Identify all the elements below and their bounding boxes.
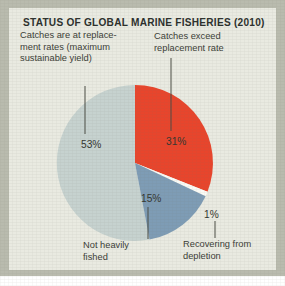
- data-label-15: 15%: [141, 193, 161, 204]
- data-label-53: 53%: [81, 139, 101, 150]
- data-label-31: 31%: [166, 136, 186, 147]
- figure-root: STATUS OF GLOBAL MARINE FISHERIES (2010)…: [0, 0, 285, 286]
- annotation-catches-exceed: Catches exceed replacement rate: [154, 31, 262, 54]
- data-label-1: 1%: [204, 209, 219, 220]
- annotation-recovering-from-depletion: Recovering from depletion: [183, 239, 275, 262]
- annotation-not-heavily-fished: Not heavily fished: [83, 240, 163, 263]
- annotation-replacement-rates: Catches are at replace- ment rates (maxi…: [20, 30, 132, 65]
